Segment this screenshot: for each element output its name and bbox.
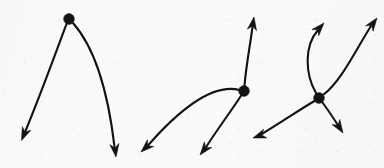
crossing-node-four-branches <box>253 18 377 138</box>
branch-up-curving-curve <box>308 30 318 93</box>
branch-down-right <box>323 103 344 134</box>
branch-down-left-curve <box>261 101 315 135</box>
branch-down-left-inner <box>200 95 242 155</box>
branch-up-curve <box>245 27 253 86</box>
branch-up <box>245 17 257 86</box>
branch-up-curving <box>308 23 324 93</box>
branch-up-right-arrowhead-icon <box>366 18 377 31</box>
phase-portrait-diagram <box>0 0 384 168</box>
branch-down-right <box>73 23 119 157</box>
branch-down-left <box>253 101 315 138</box>
branch-up-right <box>324 18 378 95</box>
saddle-node-three-branches-node-dot <box>239 86 250 97</box>
branch-down-right-curve <box>323 103 339 127</box>
branch-down-left-inner-curve <box>206 95 242 148</box>
branch-down-left-curve <box>26 24 67 131</box>
branch-up-right-curve <box>324 26 372 95</box>
saddle-node-three-branches <box>141 17 257 155</box>
branch-down-left-inner-arrowhead-icon <box>200 142 212 155</box>
branch-down-right-arrowhead-icon <box>332 120 343 133</box>
branch-down-left-arrowhead-icon <box>253 129 267 138</box>
branch-up-curving-arrowhead-icon <box>312 23 324 36</box>
source-node-two-branches <box>22 14 119 157</box>
branch-down-right-curve <box>73 23 115 147</box>
branch-down-left <box>22 24 67 141</box>
source-node-two-branches-node-dot <box>64 14 75 25</box>
figure-canvas: Three phase-portrait sketches with arrow… <box>0 0 384 168</box>
crossing-node-four-branches-node-dot <box>314 93 325 104</box>
